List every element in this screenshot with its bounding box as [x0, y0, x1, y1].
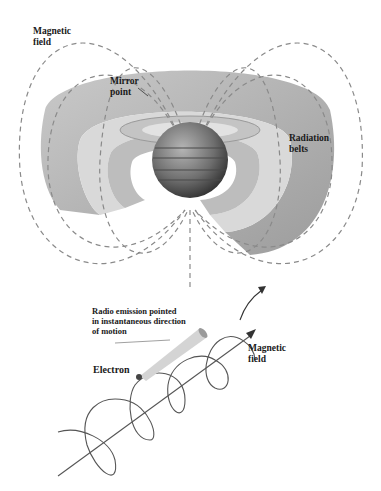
label-radio-emission: Radio emission pointed in instantaneous … [92, 306, 186, 336]
emission-leader [115, 340, 170, 343]
label-magnetic-field-bottom: Magnetic field [248, 343, 286, 365]
diagram-canvas [0, 0, 381, 491]
label-electron: Electron [93, 364, 129, 375]
field-axis-line [58, 336, 250, 476]
label-magnetic-field-top: Magnetic field [33, 26, 71, 48]
jupiter-planet [152, 122, 228, 198]
label-radiation-belts: Radiation belts [289, 133, 329, 155]
electron-dot [136, 374, 142, 380]
label-mirror-point: Mirror point [110, 76, 139, 98]
